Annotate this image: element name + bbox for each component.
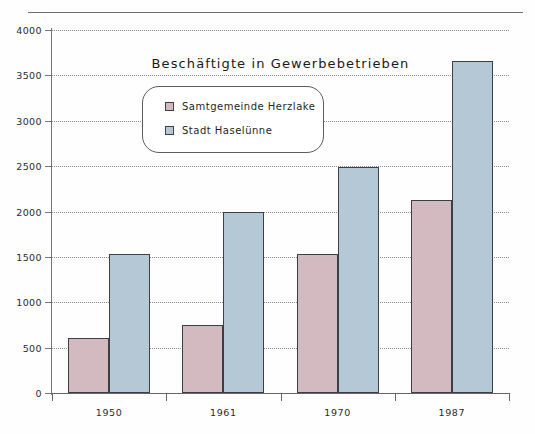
y-axis-tick-3000 (45, 121, 52, 122)
y-axis-label-2000: 2000 (16, 206, 42, 217)
x-axis-tick-1950 (166, 393, 167, 401)
x-axis-label-1950: 1950 (96, 407, 123, 418)
legend-label-series-0: Samtgemeinde Herzlake (182, 101, 315, 112)
bar-1970-series-0 (297, 254, 338, 393)
x-axis-label-1970: 1970 (324, 407, 351, 418)
bar-1970-series-1 (338, 167, 379, 393)
y-axis-tick-1000 (45, 302, 52, 303)
y-axis-tick-0 (45, 393, 52, 394)
y-axis-tick-2000 (45, 212, 52, 213)
y-axis-label-0: 0 (36, 388, 42, 399)
chart-title: Beschäftigte in Gewerbebetrieben (52, 56, 509, 71)
y-axis-label-3500: 3500 (16, 70, 42, 81)
y-axis-tick-500 (45, 348, 52, 349)
legend-swatch-icon-series-1 (165, 126, 174, 135)
x-axis-tick-1961 (281, 393, 282, 401)
x-axis-tick-origin (52, 393, 53, 401)
y-axis-label-3000: 3000 (16, 115, 42, 126)
y-axis-label-1000: 1000 (16, 297, 42, 308)
y-axis-label-4000: 4000 (16, 25, 42, 36)
top-rule-divider (28, 12, 523, 13)
legend-swatch-icon-series-0 (165, 102, 174, 111)
y-axis-tick-2500 (45, 166, 52, 167)
gridline-y-3500 (52, 75, 509, 76)
chart-figure: Beschäftigte in Gewerbebetrieben 0500100… (0, 0, 535, 434)
bar-1950-series-1 (109, 254, 150, 393)
y-axis-tick-1500 (45, 257, 52, 258)
legend-label-series-1: Stadt Haselünne (182, 125, 272, 136)
bar-1961-series-0 (182, 325, 223, 393)
bar-1961-series-1 (223, 212, 264, 394)
y-axis-label-2500: 2500 (16, 161, 42, 172)
x-axis-label-1987: 1987 (439, 407, 466, 418)
y-axis-tick-3500 (45, 75, 52, 76)
legend-item-samtgemeinde-herzlake: Samtgemeinde Herzlake (165, 101, 315, 112)
y-axis-tick-4000 (45, 30, 52, 31)
y-axis-label-500: 500 (23, 342, 42, 353)
gridline-y-2500 (52, 166, 509, 167)
x-axis-tick-1970 (395, 393, 396, 401)
bar-1987-series-1 (452, 61, 493, 393)
y-axis-label-1500: 1500 (16, 251, 42, 262)
plot-area: Beschäftigte in Gewerbebetrieben 0500100… (52, 30, 509, 393)
gridline-y-4000 (52, 30, 509, 31)
chart-legend: Samtgemeinde Herzlake Stadt Haselünne (142, 86, 324, 153)
legend-item-stadt-haselunne: Stadt Haselünne (165, 125, 272, 136)
x-axis-tick-1987 (509, 393, 510, 401)
bar-1950-series-0 (68, 338, 109, 393)
bar-1987-series-0 (411, 200, 452, 393)
x-axis-label-1961: 1961 (210, 407, 237, 418)
